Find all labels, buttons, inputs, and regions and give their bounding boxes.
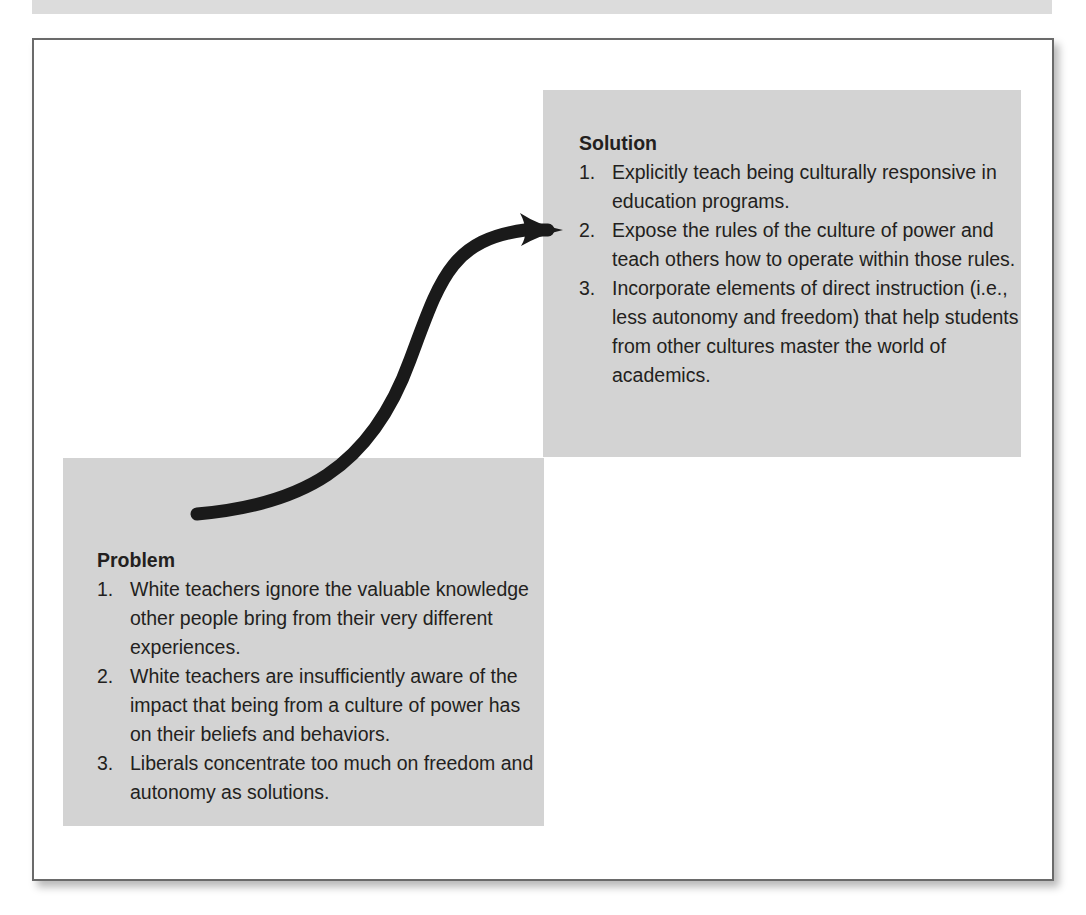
problem-title: Problem — [97, 546, 537, 575]
problem-item: 1. White teachers ignore the valuable kn… — [97, 575, 537, 662]
solution-box: Solution 1. Explicitly teach being cultu… — [543, 90, 1021, 457]
solution-item: 1. Explicitly teach being culturally res… — [579, 158, 1019, 216]
problem-item: 3. Liberals concentrate too much on free… — [97, 749, 537, 807]
problem-list: 1. White teachers ignore the valuable kn… — [97, 575, 537, 807]
problem-item: 2. White teachers are insufficiently awa… — [97, 662, 537, 749]
solution-list: 1. Explicitly teach being culturally res… — [579, 158, 1019, 390]
solution-item: 2. Expose the rules of the culture of po… — [579, 216, 1019, 274]
problem-box: Problem 1. White teachers ignore the val… — [63, 458, 544, 826]
solution-title: Solution — [579, 129, 1019, 158]
clipped-caption-strip — [32, 0, 1052, 14]
solution-item: 3. Incorporate elements of direct instru… — [579, 274, 1019, 390]
